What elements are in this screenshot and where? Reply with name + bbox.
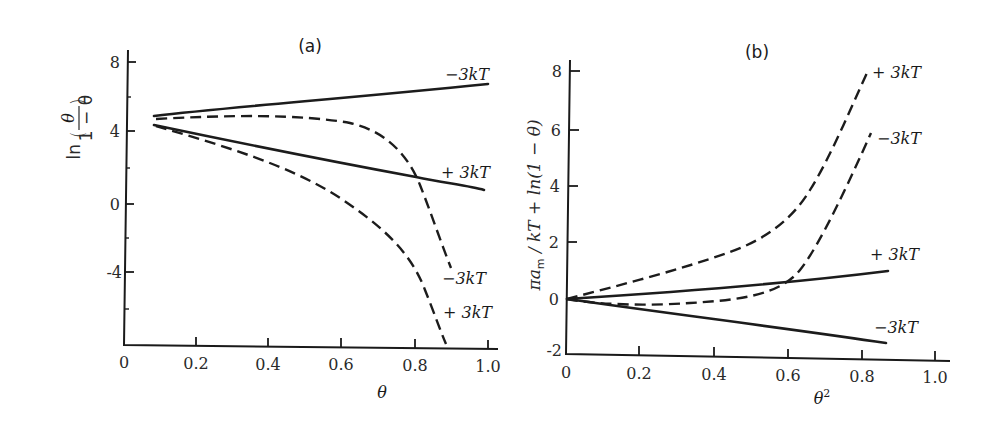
svg-text:-4: -4 (106, 263, 122, 282)
svg-text:0: 0 (549, 290, 559, 309)
panel-b: (b) 8 6 4 2 0 -2 0 0.2 (524, 42, 950, 408)
panel-a-label: (a) (298, 36, 322, 56)
svg-text:0.6: 0.6 (775, 366, 800, 385)
panel-b-x-tick-labels: 0 0.2 0.4 0.6 0.8 1.0 (561, 363, 948, 387)
panel-b-label-dashed-minus: −3kT (877, 129, 922, 148)
panel-a-x-tick-labels: 0 0.2 0.4 0.6 0.8 1.0 (119, 353, 501, 376)
svg-text:4: 4 (550, 177, 560, 196)
panel-a-label-dashed-minus: −3kT (442, 269, 487, 288)
svg-text:2: 2 (549, 233, 559, 252)
svg-text:-2: -2 (546, 341, 562, 360)
svg-text:0.4: 0.4 (255, 355, 280, 374)
panel-b-solid-plus3kT (567, 271, 888, 299)
panel-a-solid-plus3kT (154, 125, 484, 190)
panel-b-dashed-plus3kT (567, 73, 867, 299)
svg-text:0: 0 (110, 195, 120, 214)
svg-text:6: 6 (551, 121, 561, 140)
panel-a-label-dashed-plus: + 3kT (443, 303, 493, 322)
svg-text:1.0: 1.0 (922, 368, 947, 387)
panel-b-label: (b) (745, 42, 769, 62)
figure: (a) 8 4 0 -4 0 (0, 0, 998, 433)
panel-b-label-solid-plus: + 3kT (870, 245, 920, 264)
panel-b-y-title: πam / kT + ln(1 − θ) (524, 119, 547, 291)
svg-text:ln: ln (64, 144, 84, 160)
panel-a-x-title: θ (377, 383, 387, 402)
svg-text:8: 8 (552, 62, 562, 81)
panel-a-dashed-plus3kT (156, 126, 446, 344)
svg-text:0: 0 (561, 363, 571, 382)
svg-text:0.8: 0.8 (402, 356, 427, 375)
svg-text:0.2: 0.2 (626, 364, 651, 383)
panel-a-label-solid-plus: + 3kT (441, 163, 491, 182)
svg-text:0.6: 0.6 (328, 355, 353, 374)
panel-a-axes (124, 50, 498, 349)
panel-a-y-title: ln ( θ 1 − θ ) (59, 95, 96, 160)
panel-b-axes (566, 60, 950, 361)
svg-text:0: 0 (119, 353, 129, 372)
panel-a-y-tick-labels: 8 4 0 -4 (106, 53, 122, 282)
svg-text:1.0: 1.0 (475, 357, 500, 376)
panel-b-y-tick-labels: 8 6 4 2 0 -2 (546, 62, 562, 360)
panel-a-solid-minus3kT (154, 84, 488, 116)
panel-b-solid-minus3kT (567, 299, 886, 343)
svg-text:4: 4 (110, 122, 120, 141)
svg-text:0.2: 0.2 (183, 354, 208, 373)
svg-text:): ) (68, 98, 88, 105)
svg-text:0.4: 0.4 (701, 365, 726, 384)
panel-b-label-dashed-plus: + 3kT (872, 63, 922, 82)
panel-a-label-solid-minus: −3kT (445, 65, 490, 84)
panel-b-x-title: θ2 (814, 387, 831, 408)
svg-text:0.8: 0.8 (849, 367, 874, 386)
panel-b-label-solid-minus: −3kT (874, 318, 919, 337)
svg-text:8: 8 (110, 53, 120, 72)
panel-a-dashed-minus3kT (156, 116, 451, 268)
panel-a: (a) 8 4 0 -4 0 (59, 36, 501, 402)
